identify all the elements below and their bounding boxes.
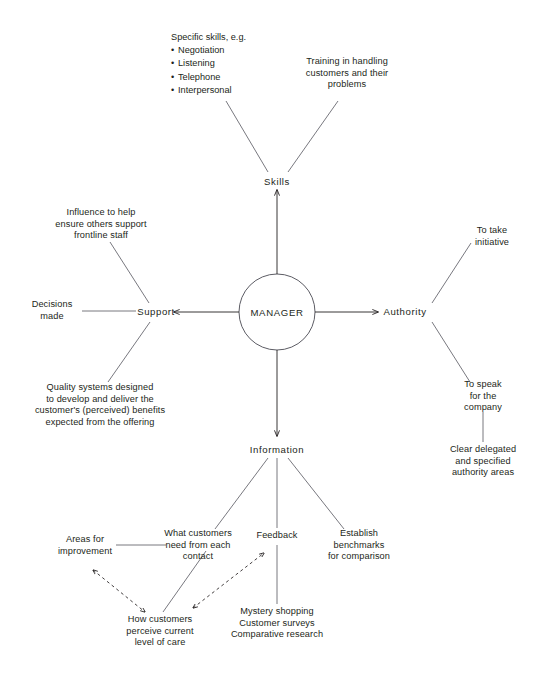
skill-item: Negotiation (171, 44, 246, 57)
edge-authority-speak (432, 322, 470, 382)
node-influence: Influence to help ensure others support … (55, 207, 146, 242)
node-how-customers-perceive: How customers perceive current level of … (126, 614, 193, 649)
diagram-edges (0, 0, 552, 684)
skill-item: Listening (171, 57, 246, 70)
edge-information-benchmarks (288, 458, 344, 529)
node-decisions-made: Decisions made (32, 299, 73, 322)
edge-skills-training (288, 101, 338, 172)
node-speak-for-company: To speak for the company (464, 379, 502, 414)
node-take-initiative: To take initiative (475, 225, 509, 248)
node-research-methods: Mystery shopping Customer surveys Compar… (231, 606, 323, 641)
hub-authority[interactable]: Authority (383, 306, 426, 318)
node-quality-systems: Quality systems designed to develop and … (35, 382, 165, 428)
node-training: Training in handling customers and their… (306, 56, 388, 91)
edge-support-influence (110, 242, 149, 303)
node-feedback[interactable]: Feedback (256, 530, 297, 542)
edge-dashed-areas-how (93, 570, 145, 612)
edge-information-what (215, 458, 268, 529)
skill-item: Telephone (171, 71, 246, 84)
manager-label: MANAGER (250, 307, 303, 318)
hub-information[interactable]: Information (250, 444, 304, 456)
node-clear-delegated: Clear delegated and specified authority … (450, 444, 516, 479)
skill-item: Interpersonal (171, 84, 246, 97)
specific-skills-heading: Specific skills, e.g. (171, 31, 246, 44)
diagram-canvas: MANAGER Skills Support Authority Informa… (0, 0, 552, 684)
node-areas-for-improvement: Areas for improvement (58, 534, 112, 557)
node-establish-benchmarks: Establish benchmarks for comparison (328, 528, 390, 563)
hub-support[interactable]: Support (137, 306, 175, 318)
hub-skills[interactable]: Skills (264, 176, 290, 188)
specific-skills-block: Specific skills, e.g. Negotiation Listen… (171, 31, 246, 97)
edge-skills-specific (226, 101, 268, 172)
node-what-customers-need: What customers need from each contact (164, 528, 232, 563)
edge-authority-initiative (432, 243, 471, 303)
edge-support-quality (108, 322, 150, 382)
